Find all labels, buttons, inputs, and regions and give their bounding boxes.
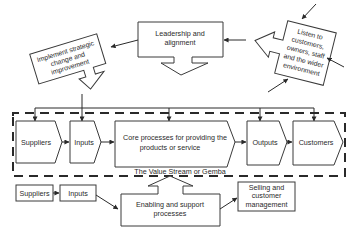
external-arrow-top	[302, 4, 316, 19]
step-core-label-1: Core processes for providing the	[123, 133, 227, 142]
selling-label-3: management	[246, 200, 288, 209]
value-stream-caption: The Value Stream or Gemba	[134, 167, 225, 176]
leadership-to-implement-arrow	[111, 40, 138, 47]
support-inputs-box: Inputs	[60, 185, 96, 201]
step-outputs: Outputs	[247, 121, 287, 165]
enabling-label-2: processes	[154, 209, 187, 218]
support-suppliers-label: Suppliers	[20, 189, 50, 198]
external-arrow-right	[327, 58, 344, 67]
value-stream-diagram: Leadership and alignment Implement strat…	[0, 0, 361, 238]
step-core: Core processes for providing the product…	[115, 121, 235, 167]
leadership-label-1: Leadership and	[155, 29, 205, 38]
selling-label-2: customer	[252, 191, 282, 200]
step-customers: Customers	[293, 121, 343, 165]
step-suppliers: Suppliers	[16, 121, 62, 163]
step-inputs: Inputs	[70, 121, 101, 163]
step-outputs-label: Outputs	[252, 138, 278, 147]
implement-box: Implement strategic change and improveme…	[30, 34, 112, 103]
support-inputs-label: Inputs	[68, 189, 88, 198]
enabling-label-1: Enabling and support	[136, 200, 204, 209]
leadership-label-2: alignment	[164, 38, 195, 47]
step-suppliers-label: Suppliers	[21, 138, 51, 147]
step-customers-label: Customers	[299, 138, 334, 147]
support-inputs-to-enabling-arrow	[96, 195, 118, 209]
selling-box: Selling and customer management	[238, 182, 295, 211]
enabling-to-selling-arrow	[220, 198, 237, 209]
external-arrow-bottom	[268, 79, 288, 92]
enabling-box: Enabling and support processes	[121, 176, 220, 226]
listen-box: Listen to customers, owners, staff and t…	[248, 14, 336, 85]
step-inputs-label: Inputs	[74, 138, 94, 147]
step-core-label-2: products or service	[140, 143, 201, 152]
leadership-box: Leadership and alignment	[138, 22, 223, 75]
support-suppliers-box: Suppliers	[16, 185, 53, 201]
